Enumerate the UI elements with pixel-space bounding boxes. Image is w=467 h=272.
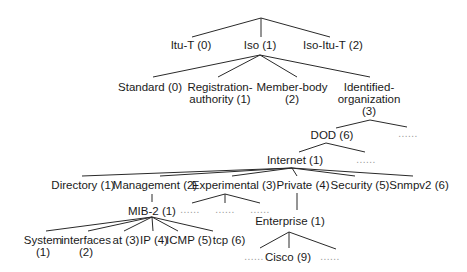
node-internet: Internet (1) [267,154,323,166]
node-ip: IP (4) [140,234,168,246]
node-interfaces-line2: (2) [79,246,93,258]
node-security: Security (5) [331,179,390,191]
node-experimental: Experimental (3) [192,179,277,191]
node-itu-t: Itu-T (0) [171,39,212,51]
oid-tree-diagram: Itu-T (0) Iso (1) Iso-Itu-T (2) Standard… [0,0,467,272]
ellipsis-experimental-2: ...... [215,204,235,215]
ellipsis-experimental-3: ...... [250,204,270,215]
ellipsis-enterprise-left: ...... [244,251,264,262]
node-registration-authority-line1: Registration- [187,81,252,93]
node-iso-itu-t: Iso-Itu-T (2) [303,39,363,51]
node-standard: Standard (0) [118,81,182,93]
node-enterprise: Enterprise (1) [255,215,325,227]
node-dod: DOD (6) [311,129,354,141]
node-cisco: Cisco (9) [265,251,311,263]
node-management: Management (2) [113,179,198,191]
ellipsis-identified-org: ...... [398,128,418,139]
node-identified-organization-line2: organization [338,93,401,105]
ellipsis-dod: ...... [356,154,376,165]
node-at: at (3) [113,234,140,246]
node-directory: Directory (1) [51,179,114,191]
node-private: Private (4) [276,179,329,191]
node-member-body-line2: (2) [285,93,299,105]
node-identified-organization-line1: Identified- [344,81,395,93]
node-system-line2: (1) [36,246,50,258]
node-iso: Iso (1) [244,39,277,51]
node-registration-authority-line2: authority (1) [189,93,251,105]
node-member-body-line1: Member-body [257,81,328,93]
node-icmp: ICMP (5) [166,234,212,246]
ellipsis-experimental-1: ...... [180,204,200,215]
node-interfaces-line1: interfaces [61,234,111,246]
node-snmpv2: Snmpv2 (6) [389,179,449,191]
node-mib-2: MIB-2 (1) [128,205,176,217]
node-tcp: tcp (6) [213,234,246,246]
node-system-line1: System [24,234,62,246]
ellipsis-enterprise-right: ...... [320,251,340,262]
node-identified-organization-line3: (3) [362,105,376,117]
